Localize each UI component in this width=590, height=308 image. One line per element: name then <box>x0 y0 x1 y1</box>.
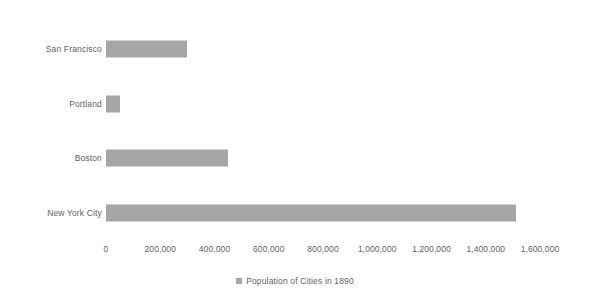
bar-san-francisco[interactable] <box>106 41 187 58</box>
x-axis-tick-label: 600,000 <box>253 244 284 254</box>
legend-label-population[interactable]: Population of Cities in 1890 <box>246 276 354 286</box>
category-label-new-york-city: New York City <box>47 208 102 218</box>
x-axis-tick-label: 1,600,000 <box>521 244 560 254</box>
x-axis-tick-label: 200,000 <box>145 244 176 254</box>
chart-legend: Population of Cities in 1890 <box>0 276 590 286</box>
bar-boston[interactable] <box>106 150 228 167</box>
category-label-san-francisco: San Francisco <box>46 44 102 54</box>
x-axis: 0200,000400,000600,000800,0001,000,0001,… <box>106 244 540 258</box>
chart-row-new-york-city: New York City <box>106 186 540 241</box>
chart-row-portland: Portland <box>106 77 540 132</box>
category-label-boston: Boston <box>75 153 102 163</box>
bar-portland[interactable] <box>106 95 120 112</box>
x-axis-tick-label: 400,000 <box>199 244 230 254</box>
bar-new-york-city[interactable] <box>106 204 516 221</box>
chart-row-san-francisco: San Francisco <box>106 22 540 77</box>
x-axis-tick-label: 1,200,000 <box>412 244 451 254</box>
category-label-portland: Portland <box>69 99 102 109</box>
bar-chart: San Francisco Portland Boston New York C… <box>0 0 590 308</box>
x-axis-tick-label: 1,400,000 <box>466 244 505 254</box>
x-axis-tick-label: 0 <box>104 244 109 254</box>
x-axis-tick-label: 800,000 <box>307 244 338 254</box>
legend-swatch-icon <box>236 278 242 284</box>
chart-row-boston: Boston <box>106 131 540 186</box>
plot-area: San Francisco Portland Boston New York C… <box>106 22 540 240</box>
x-axis-tick-label: 1,000,000 <box>358 244 397 254</box>
